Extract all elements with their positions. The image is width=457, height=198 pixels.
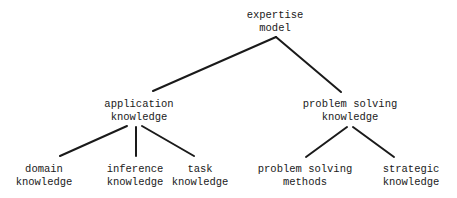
node-label-line1: inference — [107, 163, 164, 176]
node-application-knowledge: application knowledge — [104, 98, 173, 124]
node-label-line1: expertise — [247, 9, 304, 22]
edge-root-problem-solving — [276, 37, 341, 92]
node-label-line2: model — [247, 22, 304, 35]
node-label-line1: domain — [16, 163, 73, 176]
node-label-line1: task — [172, 163, 229, 176]
node-label-line2: knowledge — [16, 176, 73, 189]
node-inference-knowledge: inference knowledge — [107, 163, 164, 189]
node-label-line1: problem solving — [303, 98, 398, 111]
node-label-line1: strategic — [383, 163, 440, 176]
node-problem-solving-methods: problem solving methods — [258, 163, 353, 189]
node-label-line2: knowledge — [172, 176, 229, 189]
node-label-line2: methods — [258, 176, 353, 189]
node-label-line2: knowledge — [303, 111, 398, 124]
node-expertise-model: expertise model — [247, 9, 304, 35]
edge-problem-solving-strategic — [353, 127, 394, 157]
node-label-line1: application — [104, 98, 173, 111]
node-strategic-knowledge: strategic knowledge — [383, 163, 440, 189]
node-task-knowledge: task knowledge — [172, 163, 229, 189]
node-label-line1: problem solving — [258, 163, 353, 176]
edge-application-domain — [60, 126, 127, 156]
edge-problem-solving-methods — [306, 127, 347, 157]
node-label-line2: knowledge — [104, 111, 173, 124]
node-label-line2: knowledge — [107, 176, 164, 189]
edge-root-application — [153, 37, 276, 91]
edge-application-task — [142, 126, 194, 156]
node-domain-knowledge: domain knowledge — [16, 163, 73, 189]
node-problem-solving-knowledge: problem solving knowledge — [303, 98, 398, 124]
node-label-line2: knowledge — [383, 176, 440, 189]
